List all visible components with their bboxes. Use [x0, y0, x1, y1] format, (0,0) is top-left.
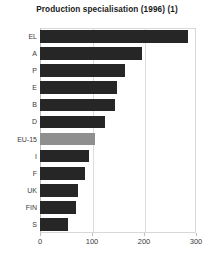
bar-row	[40, 64, 196, 77]
bar-row	[40, 150, 196, 163]
y-axis-label-d: D	[0, 118, 37, 125]
bar-s[interactable]	[40, 218, 68, 231]
x-axis-tick	[144, 233, 145, 236]
x-axis-tick	[40, 233, 41, 236]
x-axis-tick	[196, 233, 197, 236]
bar-row	[40, 218, 196, 231]
bar-row	[40, 184, 196, 197]
x-axis-label-200: 200	[138, 237, 151, 246]
bar-row	[40, 116, 196, 129]
x-axis-label-0: 0	[38, 237, 42, 246]
bar-eu-15[interactable]	[40, 133, 95, 146]
y-axis-label-eu-15: EU-15	[0, 136, 37, 143]
y-axis-label-e: E	[0, 84, 37, 91]
y-axis-label-el: EL	[0, 33, 37, 40]
x-axis-label-100: 100	[86, 237, 99, 246]
bar-p[interactable]	[40, 64, 125, 77]
y-axis-label-b: B	[0, 101, 37, 108]
y-axis-labels: ELAPEBDEU-15IFUKFINS	[0, 28, 37, 233]
bar-uk[interactable]	[40, 184, 78, 197]
y-axis-label-fin: FIN	[0, 204, 37, 211]
bar-b[interactable]	[40, 99, 115, 112]
bar-el[interactable]	[40, 30, 188, 43]
bar-e[interactable]	[40, 81, 117, 94]
bar-row	[40, 167, 196, 180]
bar-i[interactable]	[40, 150, 89, 163]
chart-container: Production specialisation (1996) (1) ELA…	[0, 0, 214, 260]
bar-row	[40, 133, 196, 146]
x-axis-label-300: 300	[190, 237, 203, 246]
bar-f[interactable]	[40, 167, 85, 180]
y-axis-label-i: I	[0, 153, 37, 160]
x-axis-tick	[92, 233, 93, 236]
bar-fin[interactable]	[40, 201, 76, 214]
x-axis-labels: 0100200300	[0, 237, 214, 251]
y-axis-label-s: S	[0, 221, 37, 228]
y-axis-label-f: F	[0, 170, 37, 177]
y-axis-label-a: A	[0, 50, 37, 57]
chart-title: Production specialisation (1996) (1)	[0, 5, 214, 14]
bar-row	[40, 99, 196, 112]
y-axis-label-uk: UK	[0, 187, 37, 194]
bar-row	[40, 30, 196, 43]
bar-a[interactable]	[40, 47, 142, 60]
bars-layer	[40, 28, 196, 233]
bar-row	[40, 47, 196, 60]
bar-d[interactable]	[40, 116, 105, 129]
y-axis-label-p: P	[0, 67, 37, 74]
bar-row	[40, 201, 196, 214]
bar-row	[40, 81, 196, 94]
